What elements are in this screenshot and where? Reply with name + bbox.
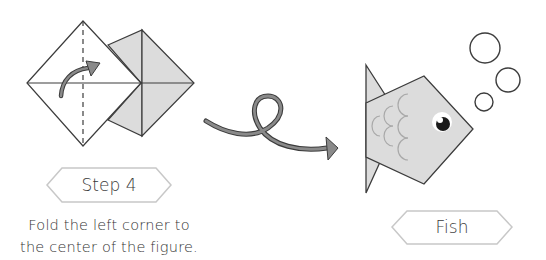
bubble-small	[475, 93, 493, 111]
bubble-icon	[470, 33, 520, 111]
fish-figure	[366, 65, 473, 193]
instruction-line-2: the center of the figure.	[0, 236, 224, 258]
bubble-large	[470, 33, 500, 63]
step-figure	[27, 21, 194, 146]
fish-badge-label: Fish	[390, 217, 514, 237]
instruction-line-1: Fold the left corner to	[0, 214, 224, 236]
loop-arrow-icon	[206, 96, 338, 160]
fish-eye	[432, 112, 452, 132]
step-badge-label: Step 4	[47, 175, 171, 195]
bubble-medium	[496, 68, 520, 92]
